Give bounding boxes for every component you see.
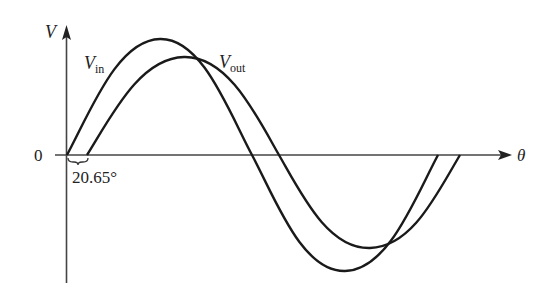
v-out-label: Vout [219,52,246,75]
phase-shift-label: 20.65° [72,168,117,187]
v-in-label: Vin [84,53,104,76]
origin-label: 0 [34,146,43,165]
theta-axis-label: θ [517,146,525,165]
v-axis-label: V [45,22,58,42]
phase-shift-brace-icon [68,158,88,165]
waveform-diagram: θ V 0 Vin Vout 20.65° [0,0,544,303]
